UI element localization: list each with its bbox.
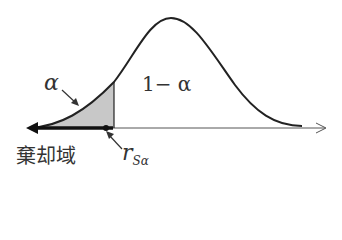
critical-value-main: r: [122, 140, 133, 165]
rejection-region-label: 棄却域: [16, 140, 76, 169]
critical-value-point: [103, 125, 109, 131]
critical-value-pointer-arrowhead-icon: [106, 131, 114, 139]
alpha-shaded-region: [30, 82, 114, 128]
critical-value-subscript: Sα: [133, 154, 149, 168]
rejection-arrowhead-icon: [26, 122, 38, 134]
one-minus-alpha-label: 1− α: [142, 72, 191, 96]
alpha-label: α: [44, 70, 59, 95]
critical-value-pointer-arrow: [109, 135, 122, 149]
critical-value-label: rSα: [122, 140, 149, 165]
